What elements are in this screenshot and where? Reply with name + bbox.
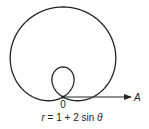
limacon-diagram: 0 A r = 1 + 2 sin θ [0, 0, 149, 129]
limacon-curve [10, 7, 116, 101]
equation-caption: r = 1 + 2 sin θ [41, 112, 103, 123]
pole-label: 0 [60, 99, 66, 110]
axis-label: A [133, 92, 141, 103]
equation-body: = 1 + 2 sin [45, 112, 97, 123]
equation-var: θ [97, 112, 103, 123]
